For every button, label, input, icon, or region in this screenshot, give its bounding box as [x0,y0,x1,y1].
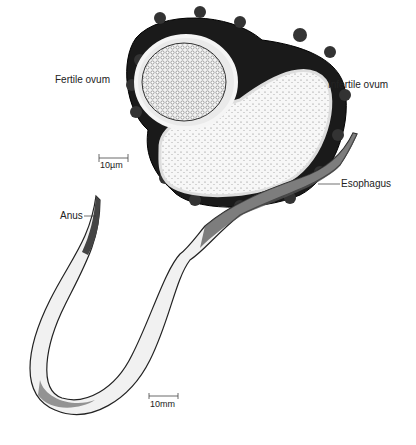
label-infertile-ovum: Infertile ovum [328,80,388,90]
illustration: Fertile ovum Infertile ovum Esophagus An… [0,0,416,445]
label-fertile-ovum: Fertile ovum [55,75,110,85]
fertile-ovum [142,43,226,121]
label-anus: Anus [60,211,83,221]
label-esophagus: Esophagus [341,179,391,189]
label-scale-ovum: 10µm [100,161,123,170]
label-scale-worm: 10mm [150,400,175,409]
drawing [0,0,416,445]
